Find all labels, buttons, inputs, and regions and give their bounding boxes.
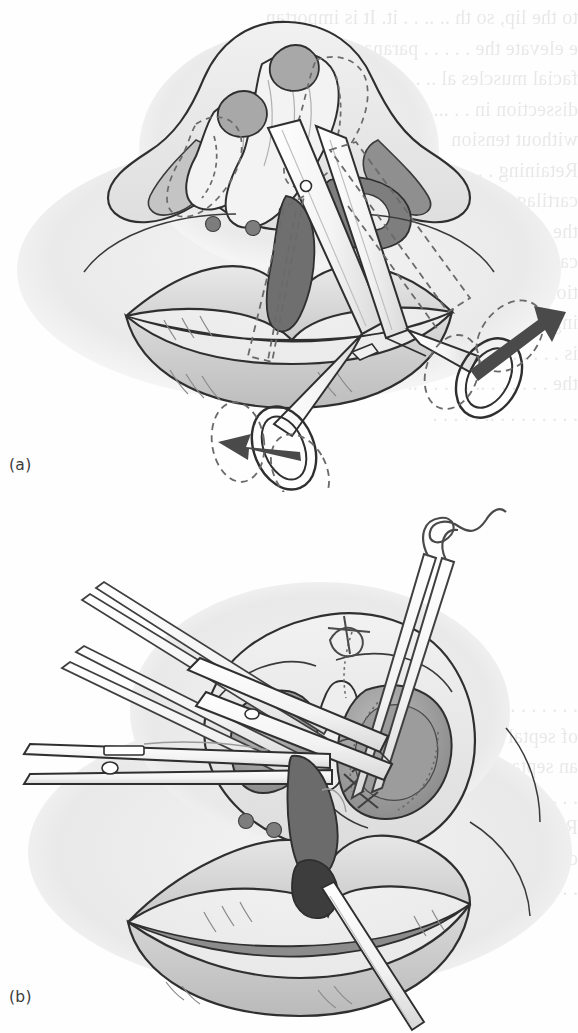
figure-page: to the lip, so th .. .. . . it. It is im… [0, 0, 578, 1033]
figure-panel-a [0, 0, 578, 492]
panel-label-b: (b) [9, 988, 32, 1006]
suture-thread [423, 509, 506, 560]
panel-label-a: (a) [9, 456, 32, 474]
figure-panel-b [0, 492, 578, 1033]
movement-arrow-left [218, 434, 301, 461]
